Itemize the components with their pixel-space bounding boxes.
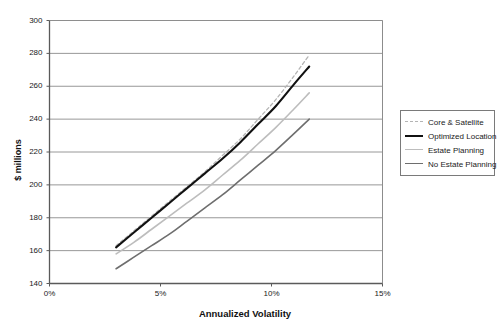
legend-swatch-icon [404, 117, 424, 127]
x-tick-label: 0% [35, 290, 65, 298]
y-tick-label: 180 [15, 214, 43, 222]
legend-item: No Estate Planning [404, 157, 491, 171]
legend-item: Estate Planning [404, 143, 491, 157]
y-tick-label: 240 [15, 115, 43, 123]
y-tick-label: 280 [15, 49, 43, 57]
chart-container: 140160180200220240260280300 0%5%10%15% $… [0, 0, 504, 331]
chart-legend: Core & SatelliteOptimized LocationEstate… [400, 110, 495, 176]
y-tick-label: 140 [15, 280, 43, 288]
series-line [116, 93, 309, 254]
legend-item-label: Core & Satellite [428, 118, 484, 127]
legend-swatch-icon [404, 159, 424, 169]
legend-item-label: Estate Planning [428, 146, 484, 155]
x-tick-label: 10% [257, 290, 287, 298]
x-axis-title: Annualized Volatility [155, 308, 335, 319]
x-tick-label: 5% [146, 290, 176, 298]
series-line [116, 67, 309, 248]
y-axis-title: $ millions [13, 125, 23, 195]
legend-item: Core & Satellite [404, 115, 491, 129]
legend-item-label: Optimized Location [428, 132, 496, 141]
legend-item-label: No Estate Planning [428, 160, 497, 169]
legend-swatch-icon [404, 131, 424, 141]
y-tick-label: 260 [15, 82, 43, 90]
legend-item: Optimized Location [404, 129, 491, 143]
x-tick-label: 15% [368, 290, 398, 298]
series-line [116, 55, 309, 246]
legend-swatch-icon [404, 145, 424, 155]
series-line [116, 119, 309, 269]
y-tick-label: 160 [15, 247, 43, 255]
y-tick-label: 300 [15, 17, 43, 25]
